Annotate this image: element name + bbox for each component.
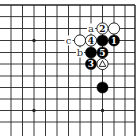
black-stone-5: 5 — [97, 47, 108, 58]
variation-letter-c: c — [66, 35, 72, 46]
star-point — [101, 109, 104, 112]
stones-layer: 24153 — [74, 23, 119, 93]
move-number: 3 — [88, 59, 94, 69]
white-stone-4: 4 — [85, 35, 96, 46]
move-number: 2 — [99, 24, 105, 34]
white-stone-icon — [74, 35, 85, 46]
move-number: 5 — [99, 48, 105, 58]
black-stone-1: 1 — [108, 35, 119, 46]
black-stone — [85, 47, 96, 58]
white-stone — [108, 23, 119, 34]
white-stone-2: 2 — [97, 23, 108, 34]
variation-letter-b: b — [77, 47, 83, 58]
black-stone-3: 3 — [85, 58, 96, 69]
move-number: 4 — [88, 36, 94, 46]
go-board-diagram: acb 24153 — [0, 0, 139, 136]
star-point — [32, 39, 35, 42]
variation-letter-a: a — [88, 23, 94, 34]
white-stone — [74, 35, 85, 46]
star-point — [32, 109, 35, 112]
move-number: 1 — [111, 36, 117, 46]
white-stone — [97, 58, 108, 69]
black-stone — [97, 82, 108, 93]
black-stone — [97, 35, 108, 46]
white-stone-icon — [108, 23, 119, 34]
black-stone-icon — [97, 82, 108, 93]
black-stone-icon — [97, 35, 108, 46]
black-stone-icon — [85, 47, 96, 58]
